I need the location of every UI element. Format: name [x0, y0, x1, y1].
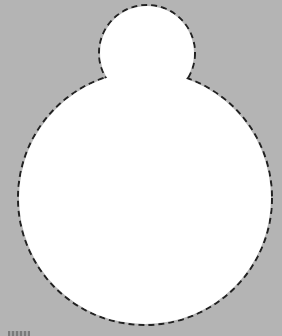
silhouette-canvas	[0, 0, 282, 336]
silhouette-shape	[18, 5, 272, 325]
corner-artifact	[8, 331, 30, 336]
body-fill	[19, 72, 271, 324]
